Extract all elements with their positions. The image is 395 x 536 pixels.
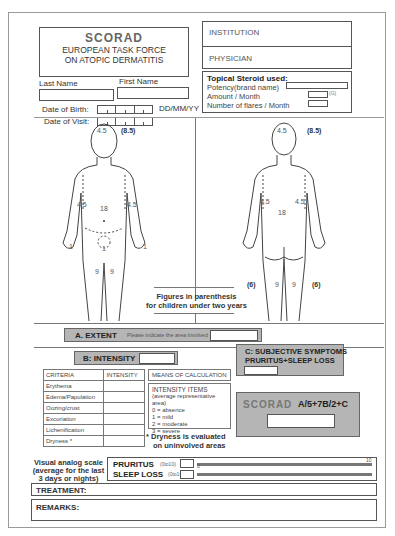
- subtitle-line2: ON ATOPIC DERMATITIS: [40, 55, 188, 65]
- criteria-header: CRITERIA: [44, 370, 104, 381]
- pruritus-slider[interactable]: [197, 463, 372, 466]
- figure-divider: [195, 118, 196, 298]
- table-row: Dryness *: [44, 436, 145, 447]
- potency-input[interactable]: [286, 82, 348, 89]
- scorad-total-input[interactable]: [267, 414, 335, 428]
- criteria-edema: Edema/Papulation: [44, 392, 104, 403]
- extent-hint: Please indicate the area involved: [127, 332, 208, 338]
- vas-label: Visual analog scale (average for the las…: [31, 459, 106, 483]
- edema-input[interactable]: [104, 392, 145, 403]
- extent-label: A. EXTENT: [75, 331, 117, 340]
- front-genital-value: 1: [102, 245, 106, 252]
- last-name-input[interactable]: [39, 89, 114, 101]
- note-rule-bottom: [154, 313, 234, 314]
- sleep-loss-input[interactable]: [180, 470, 194, 479]
- extent-input[interactable]: [210, 330, 258, 341]
- note-line1: Figures in parenthesis: [139, 292, 254, 301]
- pruritus-label: PRURITUS: [113, 460, 154, 469]
- means-box: INTENSITY ITEMS (average representative …: [148, 383, 231, 429]
- pruritus-input[interactable]: [180, 459, 194, 468]
- dryness-note-line1: * Dryness is evaluated: [146, 432, 226, 441]
- back-leg-left-value: 9: [275, 281, 279, 288]
- subjective-label-line1: C: SUBJECTIVE SYMPTOMS: [245, 347, 347, 356]
- front-leg-left-value: 9: [95, 268, 99, 275]
- excoriation-input[interactable]: [104, 414, 145, 425]
- back-head-value: 4.5: [277, 127, 287, 134]
- intensity-header: INTENSITY: [104, 370, 145, 381]
- first-name-input[interactable]: [117, 87, 189, 99]
- institution-box: INSTITUTION PHYSICIAN: [202, 21, 352, 69]
- means-title: MEANS OF CALCULATION: [148, 369, 231, 381]
- children-note: Figures in parenthesis for children unde…: [139, 292, 254, 310]
- subjective-panel: C: SUBJECTIVE SYMPTOMS PRURITUS+SLEEP LO…: [236, 344, 344, 376]
- dryness-note: * Dryness is evaluated on uninvolved are…: [146, 432, 226, 450]
- note-line2: for children under two years: [139, 301, 254, 310]
- slider-min: 0: [197, 463, 200, 469]
- institution-field[interactable]: INSTITUTION: [203, 22, 351, 43]
- table-row: Oozing/crust: [44, 403, 145, 414]
- physician-field[interactable]: PHYSICIAN: [203, 48, 258, 69]
- criteria-lichenification: Lichenification: [44, 425, 104, 436]
- flares-input[interactable]: [308, 100, 328, 107]
- table-row: Edema/Papulation: [44, 392, 145, 403]
- pruritus-range: (0to10): [160, 461, 176, 467]
- subtitle-line1: EUROPEAN TASK FORCE: [40, 45, 188, 55]
- scorad-form: SCORAD EUROPEAN TASK FORCE ON ATOPIC DER…: [8, 12, 386, 528]
- intensity-panel: B: INTENSITY: [74, 351, 178, 365]
- remarks-field[interactable]: REMARKS:: [31, 499, 377, 521]
- scale-1: 1 = mild: [152, 414, 227, 421]
- scorad-formula-panel: SCORAD A/5+7B/2+C: [236, 392, 360, 437]
- oozing-input[interactable]: [104, 403, 145, 414]
- first-name-label: First Name: [119, 77, 158, 86]
- extent-panel: A. EXTENT Please indicate the area invol…: [64, 328, 262, 342]
- subjective-label-line2: PRURITUS+SLEEP LOSS: [245, 356, 335, 365]
- sleep-loss-slider[interactable]: [197, 473, 372, 476]
- divider: [34, 117, 384, 118]
- remarks-label: REMARKS:: [36, 503, 79, 512]
- criteria-dryness: Dryness *: [44, 436, 104, 447]
- amount-unit: (G): [329, 90, 336, 96]
- erythema-input[interactable]: [104, 381, 145, 392]
- note-stem: [195, 313, 196, 323]
- back-arm-left-value: 4.5: [260, 198, 270, 205]
- dryness-note-line2: on uninvolved areas: [146, 441, 226, 450]
- means-items-title: INTENSITY ITEMS: [152, 386, 227, 393]
- back-head-child-value: (8.5): [307, 127, 321, 134]
- means-items-sub: (average representative area): [152, 393, 227, 407]
- criteria-table: CRITERIAINTENSITY Erythema Edema/Papulat…: [43, 369, 145, 447]
- divider: [34, 323, 384, 324]
- topical-steroid-box: Topical Steroid used: Potency(brand name…: [202, 71, 352, 113]
- back-arm-right-value: 4.5: [295, 198, 305, 205]
- treatment-label: TREATMENT:: [36, 486, 87, 495]
- form-title: SCORAD: [40, 31, 188, 45]
- treatment-field[interactable]: TREATMENT:: [31, 483, 377, 496]
- vas-box: PRURITUS (0to10) SLEEP LOSS (0to10) 0 10: [107, 457, 377, 481]
- lichenification-input[interactable]: [104, 425, 145, 436]
- scorad-title-box: SCORAD EUROPEAN TASK FORCE ON ATOPIC DER…: [39, 27, 189, 77]
- back-leg-right-value: 9: [292, 281, 296, 288]
- front-arm-right-value: 4.5: [127, 201, 137, 208]
- dryness-input[interactable]: [104, 436, 145, 447]
- scorad-formula: A/5+7B/2+C: [298, 399, 348, 409]
- slider-max: 10: [366, 457, 372, 463]
- note-rule-top: [154, 287, 234, 288]
- criteria-erythema: Erythema: [44, 381, 104, 392]
- table-row: Lichenification: [44, 425, 145, 436]
- back-leg-left-child-value: (6): [247, 281, 256, 288]
- intensity-input[interactable]: [139, 353, 175, 364]
- front-hand-left-value: 1: [69, 243, 73, 250]
- front-hand-right-value: 1: [143, 243, 147, 250]
- scale-2: 2 = moderate: [152, 421, 227, 428]
- back-leg-right-child-value: (6): [312, 281, 321, 288]
- front-leg-right-value: 9: [110, 268, 114, 275]
- criteria-oozing: Oozing/crust: [44, 403, 104, 414]
- scale-0: 0 = absence: [152, 407, 227, 414]
- front-arm-left-value: 4.5: [77, 201, 87, 208]
- amount-input[interactable]: [308, 91, 328, 98]
- scorad-formula-label: SCORAD: [243, 399, 292, 410]
- subjective-input[interactable]: [244, 366, 278, 375]
- vas-label-line3: 3 days or nights): [31, 475, 106, 483]
- table-row: Erythema: [44, 381, 145, 392]
- dob-input[interactable]: [97, 105, 153, 114]
- criteria-excoriation: Excoriation: [44, 414, 104, 425]
